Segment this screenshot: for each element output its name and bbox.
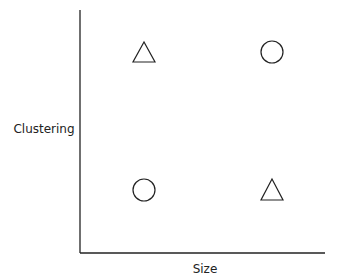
quadrant-diagram: Clustering Size	[0, 0, 341, 277]
y-axis-label: Clustering	[12, 122, 76, 136]
x-axis-label: Size	[180, 262, 230, 276]
triangle-marker-top-left	[133, 42, 155, 62]
circle-marker-bottom-left	[133, 179, 155, 201]
triangle-marker-bottom-right	[261, 179, 283, 200]
circle-marker-top-right	[261, 41, 283, 63]
plot-area	[0, 0, 341, 277]
